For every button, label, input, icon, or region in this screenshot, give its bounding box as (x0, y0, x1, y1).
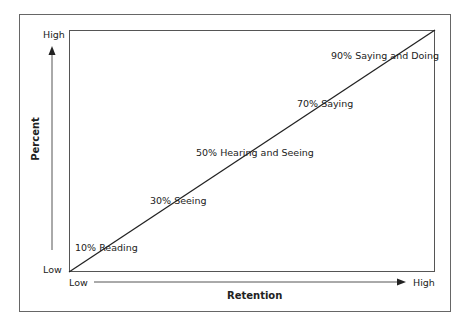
x-axis-high-label: High (413, 278, 435, 288)
y-axis-arrowhead-icon (49, 46, 56, 55)
x-axis-title: Retention (227, 291, 282, 301)
point-label-saying: 70% Saying (297, 99, 353, 109)
x-axis-arrowhead-icon (397, 279, 406, 286)
y-axis-high-label: High (43, 30, 65, 40)
point-label-reading: 10% Reading (75, 243, 138, 253)
point-label-seeing: 30% Seeing (150, 196, 207, 206)
point-label-hearing-and-seeing: 50% Hearing and Seeing (196, 148, 314, 158)
point-label-saying-and-doing: 90% Saying and Doing (331, 51, 439, 61)
x-axis-low-label: Low (69, 278, 88, 288)
y-axis-low-label: Low (43, 265, 62, 275)
y-axis-title: Percent (31, 117, 41, 161)
